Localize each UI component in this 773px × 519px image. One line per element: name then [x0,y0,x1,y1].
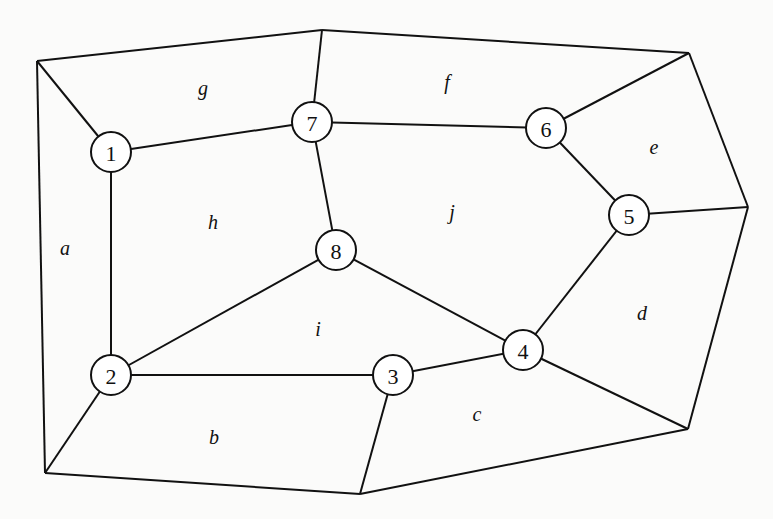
node-7: 7 [292,102,332,142]
edge-5-4 [523,215,629,350]
face-label-c: c [473,403,482,425]
face-label-d: d [637,302,648,324]
node-label: 8 [331,239,342,264]
edge-o4-o5 [688,207,748,429]
face-label-f: f [444,71,452,94]
face-label-b: b [209,426,219,448]
node-1: 1 [91,132,131,172]
edge-o5-4 [523,350,688,429]
face-label-j: j [446,201,455,224]
face-label-g: g [198,77,208,100]
node-label: 4 [518,339,529,364]
node-label: 5 [624,204,635,229]
edge-o3-o4 [689,53,748,207]
edge-8-2 [111,250,336,375]
node-label: 6 [541,117,552,142]
node-label: 7 [307,111,318,136]
graph-nodes: 12345678 [91,102,649,395]
edge-1-7 [111,122,312,152]
node-label: 1 [106,141,117,166]
node-6: 6 [526,108,566,148]
node-8: 8 [316,230,356,270]
edge-o2-o3 [322,30,689,53]
node-4: 4 [503,330,543,370]
edge-o6-o7 [45,473,360,494]
face-label-i: i [315,318,321,340]
edge-7-6 [312,122,546,128]
graph-edges [37,30,748,494]
node-5: 5 [609,195,649,235]
node-3: 3 [373,355,413,395]
planar-graph-diagram: abcdefghij 12345678 [0,0,773,519]
face-labels: abcdefghij [60,71,659,448]
edge-o7-o1 [37,61,45,473]
node-2: 2 [91,355,131,395]
edge-8-4 [336,250,523,350]
node-label: 2 [106,364,117,389]
edge-o3-6 [546,53,689,128]
face-label-h: h [208,211,218,233]
edge-o5-o6 [360,429,688,494]
node-label: 3 [388,364,399,389]
face-label-a: a [60,237,70,259]
face-label-e: e [650,136,659,158]
edge-o1-o2 [37,30,322,61]
